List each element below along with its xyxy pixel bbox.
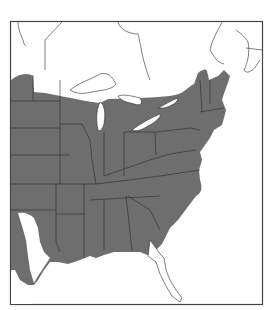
range-map — [0, 0, 273, 310]
